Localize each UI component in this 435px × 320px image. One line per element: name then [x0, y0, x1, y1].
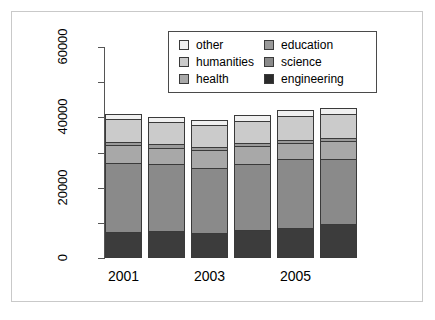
y-axis-tick — [98, 117, 105, 118]
legend-swatch-health — [179, 74, 189, 84]
bar-segment-engineering[interactable] — [148, 231, 185, 258]
legend-label-education: education — [281, 39, 333, 52]
bar-segment-science[interactable] — [320, 159, 357, 224]
x-axis-label-2001: 2001 — [94, 268, 154, 284]
bar-2004[interactable] — [234, 115, 271, 258]
bar-2006[interactable] — [320, 108, 357, 258]
legend-label-science: science — [281, 56, 322, 69]
y-axis — [97, 47, 105, 259]
legend-column-2: educationscienceengineering — [264, 38, 344, 86]
legend-item-humanities[interactable]: humanities — [179, 55, 254, 69]
y-axis-label: 0 — [55, 223, 70, 293]
y-axis-tick — [98, 153, 105, 154]
x-axis-label-2005: 2005 — [266, 268, 326, 284]
bar-segment-engineering[interactable] — [277, 228, 314, 258]
bar-segment-humanities[interactable] — [320, 114, 357, 138]
y-axis-tick — [98, 258, 105, 259]
legend-swatch-education — [264, 40, 274, 50]
legend-item-health[interactable]: health — [179, 72, 254, 86]
legend-swatch-engineering — [264, 74, 274, 84]
y-axis-tick — [98, 223, 105, 224]
bar-segment-science[interactable] — [105, 163, 142, 232]
bar-segment-humanities[interactable] — [234, 121, 271, 144]
stacked-bar-chart-figure: 0200004000060000 200120032005 otherhuman… — [0, 0, 435, 320]
legend-item-other[interactable]: other — [179, 38, 254, 52]
bar-segment-science[interactable] — [148, 164, 185, 231]
legend-column-1: otherhumanitieshealth — [179, 38, 254, 86]
legend-label-engineering: engineering — [281, 73, 344, 86]
bar-segment-health[interactable] — [277, 143, 314, 159]
y-axis-label: 40000 — [55, 82, 70, 152]
legend-item-education[interactable]: education — [264, 38, 344, 52]
bar-segment-engineering[interactable] — [191, 233, 228, 258]
legend-swatch-humanities — [179, 57, 189, 67]
y-axis-tick — [98, 188, 105, 189]
bar-segment-health[interactable] — [105, 145, 142, 163]
y-axis-tick — [98, 82, 105, 83]
legend-swatch-science — [264, 57, 274, 67]
legend-label-humanities: humanities — [196, 56, 254, 69]
bar-segment-science[interactable] — [234, 164, 271, 229]
y-axis-label: 60000 — [55, 12, 70, 82]
bar-segment-engineering[interactable] — [234, 230, 271, 258]
legend-label-other: other — [196, 39, 223, 52]
legend-item-engineering[interactable]: engineering — [264, 72, 344, 86]
bar-segment-humanities[interactable] — [277, 116, 314, 140]
bar-segment-health[interactable] — [148, 148, 185, 165]
bar-2002[interactable] — [148, 117, 185, 258]
bar-segment-humanities[interactable] — [105, 119, 142, 142]
bar-2001[interactable] — [105, 114, 142, 258]
bar-segment-humanities[interactable] — [148, 122, 185, 145]
y-axis-label: 20000 — [55, 152, 70, 222]
bar-segment-health[interactable] — [234, 146, 271, 164]
bar-2003[interactable] — [191, 120, 228, 258]
bar-segment-health[interactable] — [320, 141, 357, 159]
y-axis-tick — [98, 47, 105, 48]
bar-segment-engineering[interactable] — [105, 232, 142, 258]
chart-legend: otherhumanitieshealtheducationscienceeng… — [168, 31, 377, 93]
legend-columns: otherhumanitieshealtheducationscienceeng… — [179, 38, 368, 86]
bar-2005[interactable] — [277, 110, 314, 258]
bar-segment-engineering[interactable] — [320, 224, 357, 258]
legend-item-science[interactable]: science — [264, 55, 344, 69]
bar-segment-humanities[interactable] — [191, 125, 228, 148]
legend-swatch-other — [179, 40, 189, 50]
bar-segment-health[interactable] — [191, 150, 228, 168]
bar-segment-science[interactable] — [191, 168, 228, 233]
legend-label-health: health — [196, 73, 229, 86]
bar-segment-science[interactable] — [277, 159, 314, 228]
x-axis-label-2003: 2003 — [180, 268, 240, 284]
